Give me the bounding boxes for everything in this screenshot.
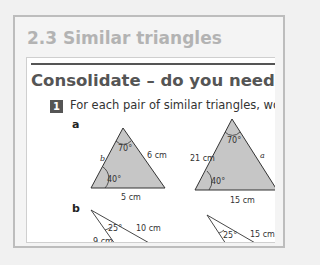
- exercise-card: Consolidate – do you need more? 1 For ea…: [26, 57, 275, 243]
- a2-bottom-angle: 40°: [211, 177, 225, 186]
- section-title: 2.3 Similar triangles: [27, 28, 222, 48]
- a2-top-angle: 70°: [227, 136, 241, 145]
- b1-lower-side: 9 cm: [93, 237, 113, 243]
- b2-angle: 25°: [223, 231, 237, 240]
- b2-upper-side: 15 cm: [250, 230, 275, 239]
- a2-base: 15 cm: [230, 196, 255, 205]
- triangle-figures: 70° 40° b 6 cm 5 cm 70° 40° 21 cm a 15 c…: [27, 58, 275, 243]
- a1-right-side: 6 cm: [147, 151, 167, 160]
- a1-bottom-angle: 40°: [107, 175, 121, 184]
- a1-base: 5 cm: [121, 193, 141, 202]
- b1-angle: 25°: [108, 224, 122, 233]
- a2-left-side: 21 cm: [190, 154, 215, 163]
- b1-upper-side: 10 cm: [136, 224, 161, 233]
- a2-right-side: a: [260, 151, 265, 160]
- a1-top-angle: 70°: [118, 144, 132, 153]
- a1-left-side: b: [100, 154, 105, 163]
